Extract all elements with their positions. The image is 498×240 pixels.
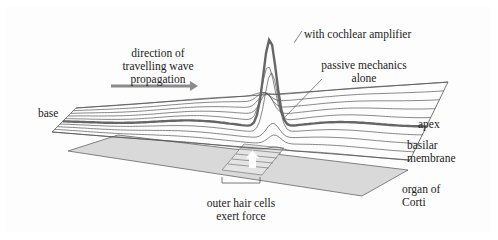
direction-label-1: direction of bbox=[131, 47, 184, 59]
basilar-label-1: basilar bbox=[407, 139, 438, 151]
direction-label-2: travelling wave bbox=[122, 60, 193, 73]
amplifier-leader bbox=[294, 31, 302, 43]
basilar-label-2: membrane bbox=[407, 152, 456, 164]
apex-label: apex bbox=[418, 118, 440, 131]
passive-label-1: passive mechanics bbox=[321, 59, 407, 72]
ohc-label-2: exert force bbox=[216, 210, 265, 222]
passive-label-2: alone bbox=[352, 72, 377, 84]
organ-label-2: Corti bbox=[402, 196, 426, 208]
direction-label-3: propagation bbox=[131, 73, 186, 86]
cochlea-diagram: direction of travelling wave propagation… bbox=[0, 0, 498, 240]
passive-leader bbox=[283, 79, 322, 119]
organ-label-1: organ of bbox=[402, 183, 441, 196]
base-label: base bbox=[38, 107, 58, 119]
ohc-label-1: outer hair cells bbox=[207, 197, 276, 209]
with-amplifier-label: with cochlear amplifier bbox=[304, 28, 411, 41]
